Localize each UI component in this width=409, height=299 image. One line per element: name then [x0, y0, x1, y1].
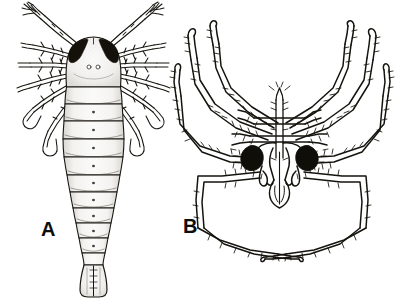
panel-b-illustration	[150, 0, 409, 299]
panel-b-label: B	[183, 216, 197, 236]
left-antenna-a	[22, 2, 78, 46]
telson-a	[80, 265, 107, 297]
left-ocellus-a	[87, 65, 91, 69]
panel-a-label: A	[41, 219, 55, 239]
right-leg-1-b	[292, 29, 380, 144]
left-leg-4-b	[193, 167, 303, 262]
right-ocellus-a	[96, 65, 100, 69]
left-eye-patch-b	[241, 146, 263, 171]
right-eye-patch-b	[296, 146, 318, 171]
cephalothorax-b	[232, 82, 327, 158]
right-leg-4-b	[261, 167, 371, 262]
proboscis-b	[270, 148, 290, 208]
specimen-b-drawing	[170, 21, 394, 262]
specimen-a-drawing	[17, 2, 170, 297]
head-shield-a	[66, 37, 121, 87]
trunk-segments-a	[63, 87, 124, 265]
figure-plate: A B	[0, 0, 409, 299]
left-leg-1-b	[184, 29, 272, 144]
